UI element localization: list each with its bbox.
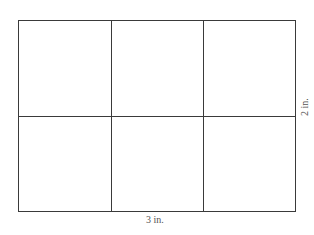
rectangle-grid bbox=[18, 20, 296, 212]
row-divider bbox=[19, 116, 295, 117]
width-label: 3 in. bbox=[146, 214, 164, 225]
height-label: 2 in. bbox=[299, 98, 310, 116]
